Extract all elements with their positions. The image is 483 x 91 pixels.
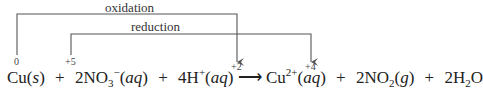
ox-state-n-reactant: +5 xyxy=(65,56,76,67)
term-cu-solid: Cu(s) xyxy=(7,68,45,87)
term-nitrate: 2NO3−(aq) xyxy=(75,68,148,87)
reduction-arrow xyxy=(71,34,311,62)
plus-sign: + xyxy=(55,68,65,87)
term-hydrogen-ion: 4H+(aq) xyxy=(178,68,233,87)
term-nitrogen-dioxide: 2NO2(g) xyxy=(356,68,414,87)
oxidation-arrow xyxy=(17,14,237,62)
ox-state-cu-reactant: 0 xyxy=(14,56,19,67)
reaction-arrow: ⟶ xyxy=(238,68,262,87)
oxidation-label: oxidation xyxy=(105,0,154,16)
plus-sign: + xyxy=(158,68,168,87)
plus-sign: + xyxy=(425,68,435,87)
plus-sign: + xyxy=(336,68,346,87)
term-copper-ion: Cu2+(aq) xyxy=(266,68,326,87)
chemical-equation: Cu(s) + 2NO3−(aq) + 4H+(aq) ⟶ Cu2+(aq) +… xyxy=(7,67,483,88)
term-water: 2H2O xyxy=(444,68,483,87)
reduction-label: reduction xyxy=(131,19,180,35)
